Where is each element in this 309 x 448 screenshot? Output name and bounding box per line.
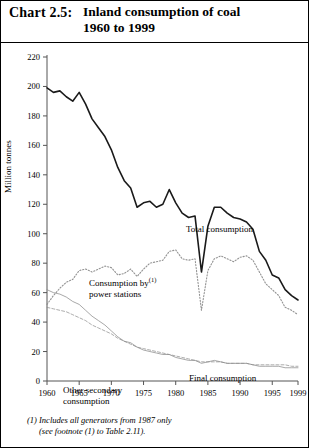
- svg-text:0: 0: [36, 376, 40, 386]
- svg-text:1985: 1985: [199, 388, 216, 398]
- title-bar: Chart 2.5: Inland consumption of coal 19…: [1, 1, 308, 43]
- svg-text:1960: 1960: [39, 388, 56, 398]
- annotation-final-consumption: Final consumption: [189, 373, 256, 384]
- footnote-line2: (see footnote (1) to Table 2.11).: [27, 426, 297, 437]
- chart-title-line1: Inland consumption of coal: [83, 4, 298, 20]
- plot-area: Million tonnes 0204060801001201401601802…: [1, 43, 308, 408]
- svg-text:220: 220: [27, 52, 40, 62]
- svg-text:200: 200: [27, 81, 40, 91]
- svg-text:1980: 1980: [167, 388, 184, 398]
- annotation-power-line2: power stations: [89, 289, 141, 299]
- annotation-total-consumption: Total consumption: [186, 224, 253, 235]
- svg-text:120: 120: [27, 199, 40, 209]
- series-line-1: [47, 88, 298, 300]
- svg-text:1975: 1975: [135, 388, 152, 398]
- annotation-power-stations: Consumption by(1) power stations: [89, 275, 156, 299]
- series-line-3: [47, 290, 298, 368]
- svg-text:40: 40: [32, 317, 41, 327]
- svg-text:100: 100: [27, 229, 40, 239]
- series-line-4: [47, 307, 298, 366]
- annotation-other-line1: Other secondary: [63, 385, 122, 395]
- svg-text:180: 180: [27, 111, 40, 121]
- series-line-2: [47, 250, 298, 315]
- svg-text:1990: 1990: [232, 388, 249, 398]
- svg-text:1999: 1999: [290, 388, 307, 398]
- chart-figure: Chart 2.5: Inland consumption of coal 19…: [0, 0, 309, 448]
- annotation-power-line1: Consumption by: [89, 278, 149, 288]
- annotation-other-secondary: Other secondary consumption: [63, 385, 122, 406]
- annotation-other-line2: consumption: [63, 396, 110, 406]
- chart-number: Chart 2.5:: [9, 5, 72, 21]
- svg-text:20: 20: [32, 347, 41, 357]
- footnote-line1: (1) Includes all generators from 1987 on…: [27, 415, 297, 426]
- annotation-power-superscript: (1): [149, 276, 157, 283]
- page-title: Inland consumption of coal 1960 to 1999: [83, 4, 298, 36]
- svg-text:140: 140: [27, 170, 40, 180]
- chart-title-line2: 1960 to 1999: [83, 20, 298, 36]
- line-chart-svg: 0204060801001201401601802002201960196519…: [1, 43, 308, 408]
- svg-text:1995: 1995: [264, 388, 281, 398]
- footnote: (1) Includes all generators from 1987 on…: [27, 415, 297, 437]
- svg-text:80: 80: [32, 258, 41, 268]
- svg-text:60: 60: [32, 288, 41, 298]
- svg-text:160: 160: [27, 140, 40, 150]
- y-axis-label: Million tonnes: [3, 140, 13, 193]
